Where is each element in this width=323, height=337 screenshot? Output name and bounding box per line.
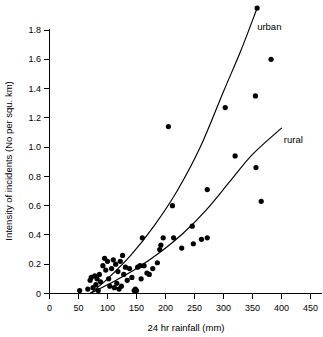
- x-tick-label: 200: [158, 303, 173, 313]
- y-tick-label: 1.6: [28, 54, 41, 64]
- data-point: [100, 263, 105, 268]
- y-tick-label: 0.2: [28, 259, 41, 269]
- data-point: [150, 266, 155, 271]
- x-axis-title: 24 hr rainfall (mm): [147, 322, 224, 333]
- data-point: [253, 93, 258, 98]
- data-point: [166, 124, 171, 129]
- y-tick-label: 1.8: [28, 25, 41, 35]
- data-point: [111, 257, 116, 262]
- trend-curves: [90, 8, 281, 293]
- scatter-chart: 00.20.40.60.81.01.21.41.61.8 05010015020…: [0, 0, 323, 337]
- data-point: [253, 165, 258, 170]
- chart-canvas: 00.20.40.60.81.01.21.41.61.8 05010015020…: [0, 0, 323, 337]
- y-axis: 00.20.40.60.81.01.21.41.61.8: [28, 25, 49, 299]
- y-tick-label: 1.2: [28, 113, 41, 123]
- data-point: [223, 105, 228, 110]
- data-point: [115, 269, 120, 274]
- data-point: [161, 235, 166, 240]
- data-point: [96, 288, 101, 293]
- data-point: [121, 272, 126, 277]
- y-tick-label: 1.0: [28, 142, 41, 152]
- data-point: [134, 288, 139, 293]
- curve-label-urban: urban: [257, 21, 281, 32]
- data-point: [155, 260, 160, 265]
- data-point: [112, 285, 117, 290]
- data-point: [233, 153, 238, 158]
- data-point: [268, 57, 273, 62]
- data-point: [205, 235, 210, 240]
- y-tick-label: 0.6: [28, 201, 41, 211]
- data-point: [139, 276, 144, 281]
- x-axis: 050100150200250300350400450: [47, 294, 322, 314]
- data-point: [190, 224, 195, 229]
- data-point: [118, 259, 123, 264]
- data-point: [158, 243, 163, 248]
- data-points: [77, 5, 274, 293]
- curve-label-group: urbanrural: [257, 21, 303, 145]
- x-tick-label: 300: [216, 303, 231, 313]
- data-point: [157, 247, 162, 252]
- data-point: [141, 263, 146, 268]
- y-axis-title: Intensity of incidents (No per squ. km): [3, 81, 14, 240]
- data-point: [199, 237, 204, 242]
- data-point: [93, 282, 98, 287]
- data-point: [103, 267, 108, 272]
- x-tick-label: 150: [129, 303, 144, 313]
- trend-curve-urban: [90, 8, 257, 293]
- x-tick-label: 50: [73, 303, 83, 313]
- data-point: [125, 278, 130, 283]
- data-point: [170, 203, 175, 208]
- data-point: [255, 5, 260, 10]
- data-point: [119, 284, 124, 289]
- x-tick-label: 250: [187, 303, 202, 313]
- y-tick-label: 0: [36, 289, 41, 299]
- data-point: [140, 235, 145, 240]
- data-point: [179, 246, 184, 251]
- data-point: [106, 276, 111, 281]
- data-point: [171, 235, 176, 240]
- data-point: [97, 272, 102, 277]
- x-tick-label: 0: [47, 303, 52, 313]
- x-tick-group: 050100150200250300350400450: [47, 294, 318, 314]
- y-tick-label: 1.4: [28, 84, 41, 94]
- data-point: [127, 266, 132, 271]
- x-tick-label: 450: [303, 303, 318, 313]
- data-point: [98, 279, 103, 284]
- curve-label-rural: rural: [284, 134, 303, 145]
- data-point: [259, 199, 264, 204]
- x-tick-label: 100: [100, 303, 115, 313]
- data-point: [109, 266, 114, 271]
- data-point: [147, 272, 152, 277]
- x-tick-label: 350: [245, 303, 260, 313]
- data-point: [85, 287, 90, 292]
- y-tick-group: 00.20.40.60.81.01.21.41.61.8: [28, 25, 49, 299]
- y-tick-label: 0.8: [28, 172, 41, 182]
- data-point: [191, 241, 196, 246]
- data-point: [129, 275, 134, 280]
- data-point: [113, 262, 118, 267]
- data-point: [205, 187, 210, 192]
- data-point: [114, 281, 119, 286]
- data-point: [105, 259, 110, 264]
- x-tick-label: 400: [274, 303, 289, 313]
- data-point: [107, 284, 112, 289]
- data-point: [77, 288, 82, 293]
- y-tick-label: 0.4: [28, 230, 41, 240]
- data-point: [120, 253, 125, 258]
